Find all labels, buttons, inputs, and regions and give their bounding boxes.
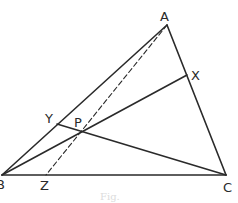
label-P: P [74,115,82,130]
label-B: B [0,177,5,192]
label-C: C [223,180,232,195]
segments-group [2,25,226,175]
label-X: X [191,68,200,83]
figure-caption: Fig. [100,191,120,202]
segment-CA [167,25,226,175]
label-Z: Z [40,178,49,193]
label-Y: Y [44,111,53,126]
segment-CY [57,124,226,175]
label-A: A [160,9,169,24]
geometry-diagram: A B C X Y P Z Fig. [0,0,238,203]
